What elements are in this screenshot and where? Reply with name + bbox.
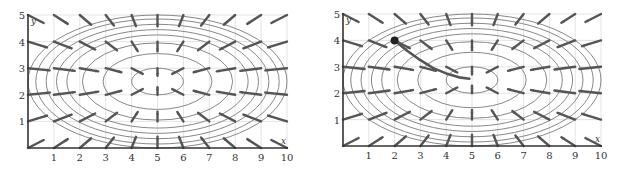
x-tick-label: 8 <box>232 152 238 163</box>
x-tick-label: 9 <box>572 150 578 161</box>
x-tick-label: 2 <box>391 150 397 161</box>
y-tick-label: 3 <box>19 63 25 74</box>
x-axis-label: x <box>595 134 600 144</box>
x-tick-label: 4 <box>443 150 449 161</box>
x-tick-label: 5 <box>154 152 160 163</box>
plot-left: 1234567891012345xy <box>19 10 294 163</box>
x-tick-label: 8 <box>546 150 552 161</box>
y-tick-label: 4 <box>19 37 25 48</box>
y-tick-label: 3 <box>334 62 340 73</box>
y-tick-label: 4 <box>334 35 340 46</box>
y-tick-label: 1 <box>334 115 340 126</box>
tick-labels: 1234567891012345 <box>334 9 608 161</box>
x-tick-label: 7 <box>520 150 526 161</box>
y-axis-label: y <box>345 15 352 25</box>
x-tick-label: 9 <box>258 152 264 163</box>
x-tick-label: 3 <box>103 152 109 163</box>
y-tick-label: 5 <box>334 9 340 20</box>
start-point-dot <box>391 36 399 44</box>
x-tick-label: 2 <box>77 152 83 163</box>
y-tick-label: 2 <box>19 90 25 101</box>
x-tick-label: 6 <box>495 150 501 161</box>
x-tick-label: 10 <box>281 152 294 163</box>
x-tick-label: 7 <box>206 152 212 163</box>
figure: 1234567891012345xy1234567891012345xy <box>0 0 621 173</box>
plot-right: 1234567891012345xy <box>334 9 608 161</box>
y-tick-label: 1 <box>19 116 25 127</box>
x-tick-label: 3 <box>417 150 423 161</box>
y-axis-label: y <box>30 16 37 26</box>
x-tick-label: 6 <box>180 152 186 163</box>
x-tick-label: 4 <box>128 152 134 163</box>
x-tick-label: 5 <box>469 150 475 161</box>
x-axis-label: x <box>281 136 286 146</box>
y-tick-label: 2 <box>334 88 340 99</box>
x-tick-label: 1 <box>366 150 372 161</box>
y-tick-label: 5 <box>19 10 25 21</box>
tick-labels: 1234567891012345 <box>19 10 294 163</box>
x-tick-label: 1 <box>51 152 57 163</box>
x-tick-label: 10 <box>595 150 608 161</box>
